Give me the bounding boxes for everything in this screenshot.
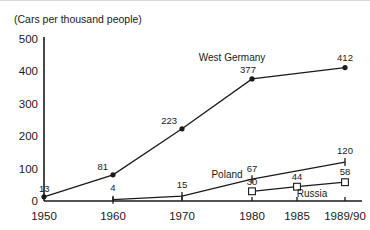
value-label-pl-4: 4 xyxy=(110,182,115,193)
value-label-ru-44: 44 xyxy=(292,171,303,182)
datapoint-ru-198990 xyxy=(342,179,349,186)
series-label-russia: Russia xyxy=(297,188,328,199)
value-label-pl-120: 120 xyxy=(337,145,353,156)
series-label-poland: Poland xyxy=(211,169,242,180)
x-tick-1950: 1950 xyxy=(31,210,57,222)
value-label-ru-58: 58 xyxy=(340,166,351,177)
value-label-ru-30: 30 xyxy=(247,176,258,187)
y-tick-400: 400 xyxy=(19,65,38,77)
x-tick-1970: 1970 xyxy=(169,210,195,222)
y-tick-200: 200 xyxy=(19,130,38,142)
value-label-wg-81: 81 xyxy=(97,161,108,172)
datapoint-wg-1980 xyxy=(249,76,254,81)
chart-title: (Cars per thousand people) xyxy=(14,13,142,25)
y-tick-500: 500 xyxy=(19,33,38,45)
y-tick-0: 0 xyxy=(32,195,38,207)
y-tick-100: 100 xyxy=(19,163,38,175)
line-chart: (Cars per thousand people) 500 400 300 2… xyxy=(0,1,370,230)
value-label-pl-15: 15 xyxy=(177,179,188,190)
value-label-wg-223: 223 xyxy=(161,115,177,126)
value-label-pl-67: 67 xyxy=(247,163,258,174)
x-tick-1980: 1980 xyxy=(239,210,265,222)
value-label-wg-13: 13 xyxy=(39,183,50,194)
datapoint-wg-198990 xyxy=(342,65,347,70)
datapoint-wg-1960 xyxy=(110,172,115,177)
x-tick-1960: 1960 xyxy=(100,210,126,222)
y-tick-300: 300 xyxy=(19,98,38,110)
series-label-west-germany: West Germany xyxy=(199,52,266,63)
value-label-wg-412: 412 xyxy=(337,52,353,63)
value-label-wg-377: 377 xyxy=(240,64,256,75)
chart-container: (Cars per thousand people) 500 400 300 2… xyxy=(0,0,370,230)
datapoint-wg-1970 xyxy=(179,126,184,131)
datapoint-ru-1980 xyxy=(249,188,256,195)
x-tick-1985: 1985 xyxy=(284,210,310,222)
datapoint-wg-1950 xyxy=(41,194,46,199)
x-tick-198990: 1989/90 xyxy=(324,210,366,222)
